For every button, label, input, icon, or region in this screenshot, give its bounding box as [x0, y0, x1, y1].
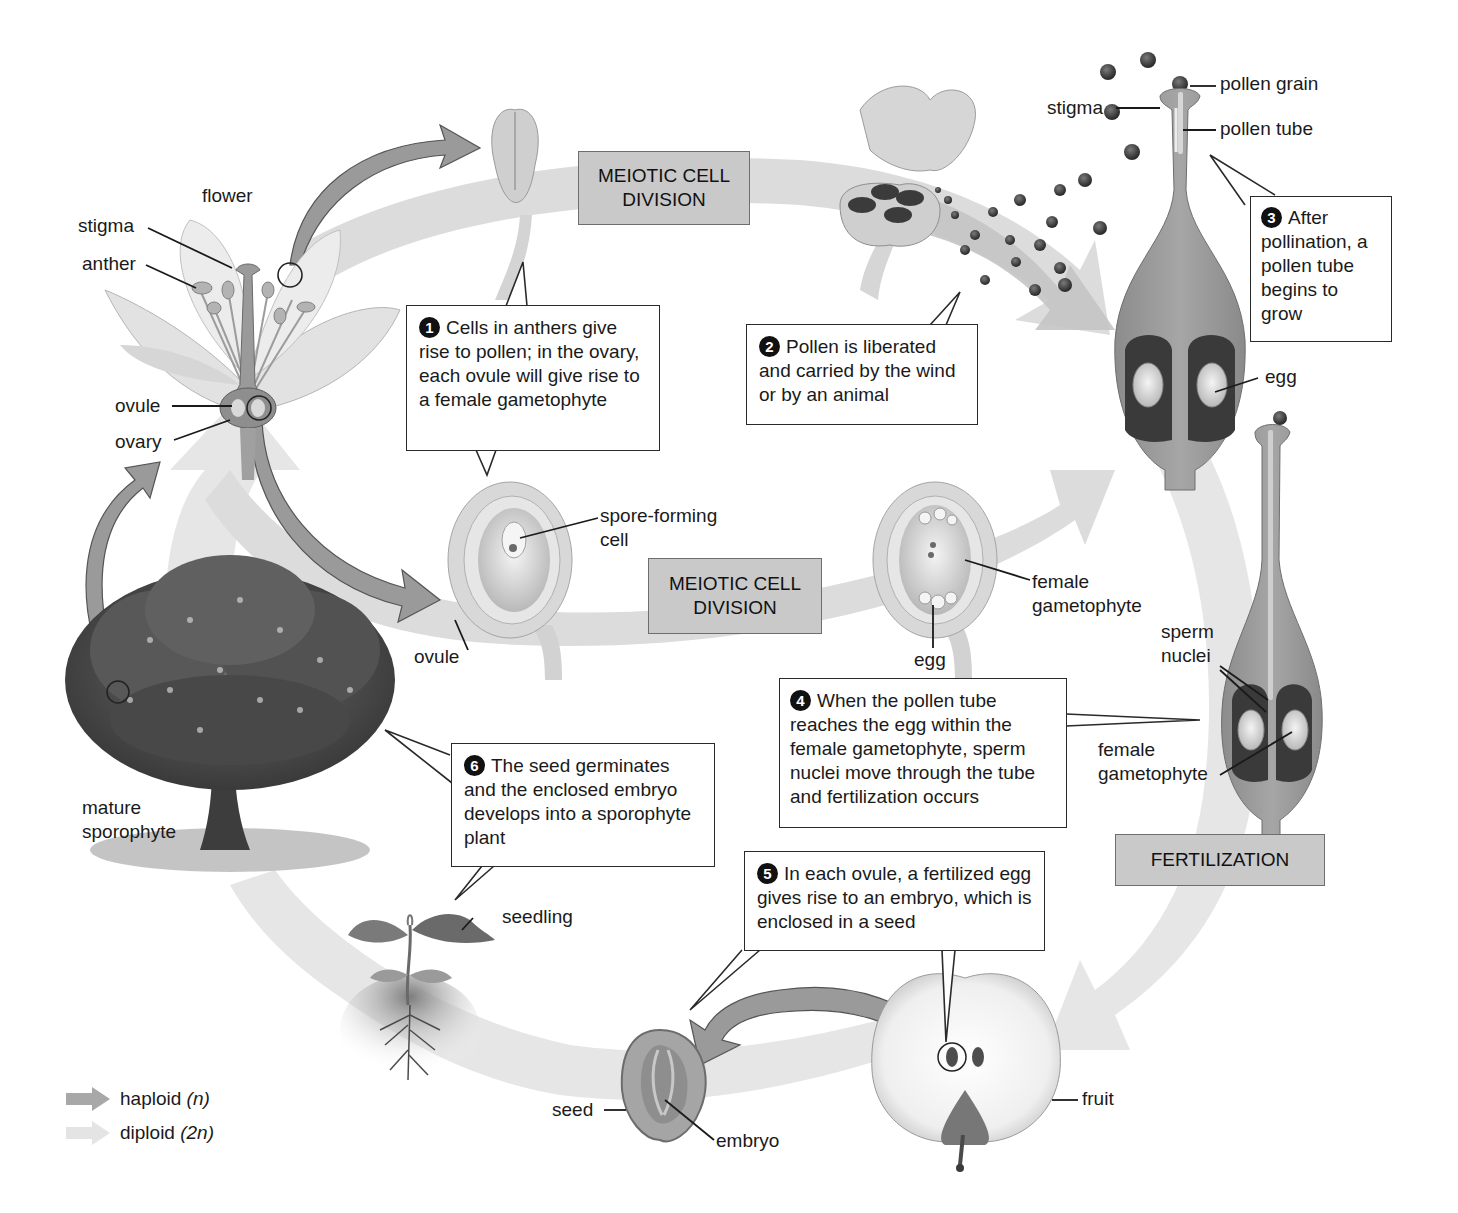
fertilization-label: FERTILIZATION [1151, 848, 1290, 872]
legend-diploid-symbol: (2n) [180, 1122, 214, 1144]
label-fruit: fruit [1082, 1087, 1114, 1111]
label-flower-ovule: ovule [115, 394, 160, 418]
haploid-arrow-icon [66, 1087, 110, 1111]
legend-haploid-symbol: (n) [187, 1088, 210, 1110]
meiosis-top-line2: DIVISION [622, 188, 705, 212]
meiosis-stage-middle: MEIOTIC CELL DIVISION [648, 558, 822, 634]
legend-haploid: haploid (n) [66, 1087, 210, 1111]
callout-step-3: 3After pollination, a pollen tube begins… [1250, 196, 1392, 342]
legend-haploid-label: haploid [120, 1088, 181, 1110]
step-number-badge: 6 [464, 755, 485, 776]
callout-text: Pollen is liberated and carried by the w… [759, 336, 955, 405]
diploid-arrow-icon [66, 1121, 110, 1145]
callout-text: The seed germinates and the enclosed emb… [464, 755, 691, 848]
label-egg-pistil: egg [1265, 365, 1297, 389]
label-mature-sporophyte: mature sporophyte [82, 796, 192, 844]
callout-step-1: 1Cells in anthers give rise to pollen; i… [406, 305, 660, 451]
label-flower-stigma: stigma [78, 214, 134, 238]
meiosis-stage-top: MEIOTIC CELL DIVISION [578, 151, 750, 225]
callout-text: When the pollen tube reaches the egg wit… [790, 690, 1035, 807]
ovule-illustration [448, 482, 572, 680]
meiosis-middle-line2: DIVISION [693, 596, 776, 620]
label-egg-middle: egg [914, 648, 946, 672]
meiosis-top-line1: MEIOTIC CELL [598, 164, 730, 188]
label-ovary: ovary [115, 430, 161, 454]
anther-cross-section [840, 86, 975, 300]
label-pollen-tube: pollen tube [1220, 117, 1313, 141]
step-number-badge: 3 [1261, 207, 1282, 228]
step-number-badge: 5 [757, 863, 778, 884]
label-female-gametophyte-middle: female gametophyte [1032, 570, 1162, 618]
label-seedling: seedling [502, 905, 573, 929]
label-ovule-middle: ovule [414, 645, 459, 669]
callout-text: Cells in anthers give rise to pollen; in… [419, 317, 640, 410]
callout-step-2: 2Pollen is liberated and carried by the … [746, 324, 978, 425]
label-sperm-nuclei: sperm nuclei [1161, 620, 1225, 668]
callout-step-6: 6The seed germinates and the enclosed em… [451, 743, 715, 867]
legend-diploid-label: diploid [120, 1122, 175, 1144]
label-seed: seed [552, 1098, 593, 1122]
fertilization-stage: FERTILIZATION [1115, 834, 1325, 886]
callout-step-5: 5In each ovule, a fertilized egg gives r… [744, 851, 1045, 951]
label-pollen-grain: pollen grain [1220, 72, 1318, 96]
callout-step-4: 4When the pollen tube reaches the egg wi… [779, 678, 1067, 828]
label-anther: anther [82, 252, 136, 276]
fruit-illustration [872, 974, 1061, 1172]
legend-diploid: diploid (2n) [66, 1121, 214, 1145]
meiosis-middle-line1: MEIOTIC CELL [669, 572, 801, 596]
seed-illustration [622, 1030, 706, 1141]
callout-text: In each ovule, a fertilized egg gives ri… [757, 863, 1032, 932]
label-pistil-stigma: stigma [1047, 96, 1103, 120]
step-number-badge: 4 [790, 690, 811, 711]
step-number-badge: 2 [759, 336, 780, 357]
label-embryo: embryo [716, 1129, 779, 1153]
label-flower: flower [202, 184, 253, 208]
step-number-badge: 1 [419, 317, 440, 338]
label-female-gametophyte-pistil: female gametophyte [1098, 738, 1228, 786]
label-spore-forming-cell: spore-forming cell [600, 504, 750, 552]
